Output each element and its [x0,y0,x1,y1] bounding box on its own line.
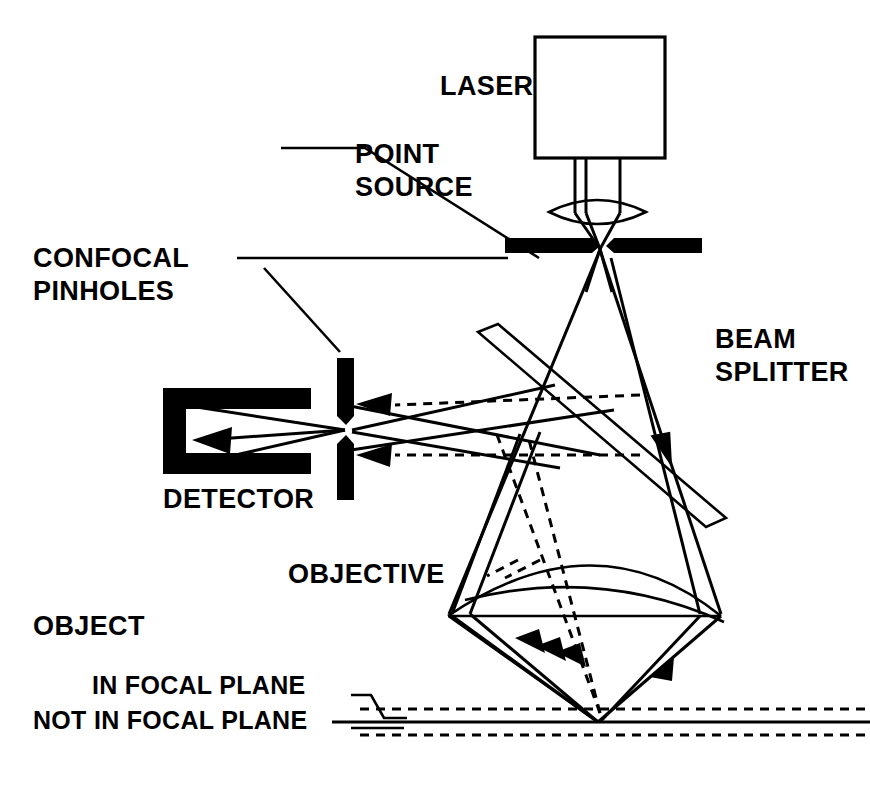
detector-pinhole-bar-upper [337,358,354,425]
label-object: OBJECT [33,611,145,641]
source-pinhole-bar-right [606,238,702,253]
label-not-in-focal-plane: NOT IN FOCAL PLANE [33,706,307,734]
confocal-diagram-root: LASER POINT SOURCE CONFOCAL PINHOLES BEA… [0,0,870,785]
label-beam-splitter-line2: SPLITTER [715,357,849,387]
label-detector: DETECTOR [163,484,314,514]
label-confocal-pinholes-line1: CONFOCAL [33,243,189,273]
label-point-source-line1: POINT [355,139,440,169]
label-objective: OBJECTIVE [288,559,445,589]
detector-pinhole-bar-lower [337,435,354,500]
canvas-background [0,0,870,785]
laser-source-box [535,37,665,158]
label-point-source-line2: SOURCE [355,172,473,202]
confocal-optical-diagram: LASER POINT SOURCE CONFOCAL PINHOLES BEA… [0,0,870,785]
label-in-focal-plane: IN FOCAL PLANE [92,671,305,699]
label-beam-splitter-line1: BEAM [715,324,796,354]
label-confocal-pinholes-line2: PINHOLES [33,276,174,306]
label-laser: LASER [440,71,534,101]
